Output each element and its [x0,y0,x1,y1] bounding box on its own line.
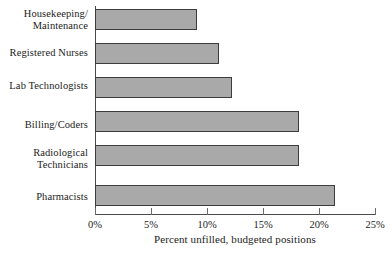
bar-radiological-technicians [95,145,299,166]
bar-billing-coders [95,111,299,132]
x-axis-tick [151,208,152,215]
category-label-registered-nurses: Registered Nurses [0,47,88,59]
x-axis-tick [375,208,376,215]
x-axis-tick [207,208,208,215]
category-axis-labels: Housekeeping/ Maintenance Registered Nur… [0,0,92,215]
plot-area: 0% 5% 10% 15% 20% 25% [95,0,375,215]
x-axis-title: Percent unfilled, budgeted positions [95,233,375,246]
x-axis-tick-label: 25% [355,219,392,231]
category-label-radiological-technicians: Radiological Technicians [0,147,88,170]
category-label-housekeeping-maintenance: Housekeeping/ Maintenance [0,8,88,31]
bar-lab-technologists [95,77,232,98]
bar-pharmacists [95,185,335,206]
x-axis-tick-label: 20% [299,219,339,231]
bar-housekeeping-maintenance [95,9,197,30]
x-axis-tick [95,208,96,215]
x-axis-tick [263,208,264,215]
x-axis-tick-label: 5% [131,219,171,231]
x-axis-tick-label: 10% [187,219,227,231]
x-axis-tick-label: 0% [75,219,115,231]
bar-registered-nurses [95,43,219,64]
bar-chart: Housekeeping/ Maintenance Registered Nur… [0,0,392,265]
category-label-billing-coders: Billing/Coders [0,119,88,131]
x-axis-tick [319,208,320,215]
category-label-lab-technologists: Lab Technologists [0,80,88,92]
x-axis-tick-label: 15% [243,219,283,231]
category-label-pharmacists: Pharmacists [0,191,88,203]
x-axis-line [95,214,375,215]
